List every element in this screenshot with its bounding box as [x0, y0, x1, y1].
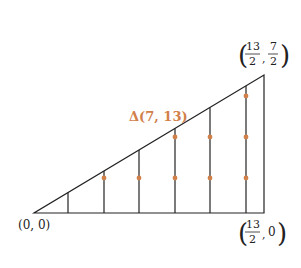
svg-text:,: ,: [262, 52, 266, 65]
svg-text:13: 13: [246, 218, 260, 231]
vertical-lines: [68, 86, 246, 213]
svg-text:,: ,: [262, 228, 266, 241]
svg-text:): ): [277, 218, 287, 248]
svg-text:): ): [280, 40, 290, 70]
svg-text:7: 7: [270, 40, 277, 53]
triangle: [34, 75, 264, 213]
svg-text:2: 2: [249, 55, 256, 68]
svg-text:0: 0: [268, 225, 276, 239]
bottom-right-label: ( 13 2 , 0 ): [238, 218, 287, 248]
origin-label: (0, 0): [18, 218, 50, 232]
svg-text:2: 2: [249, 233, 256, 246]
svg-text:13: 13: [246, 40, 260, 53]
triangle-label: Δ(7, 13): [129, 109, 188, 124]
svg-text:2: 2: [270, 55, 277, 68]
triangle-diagram: Δ(7, 13) (0, 0) ( 13 2 , 7 2 ) ( 13 2 , …: [0, 0, 301, 268]
top-right-label: ( 13 2 , 7 2 ): [238, 40, 290, 70]
